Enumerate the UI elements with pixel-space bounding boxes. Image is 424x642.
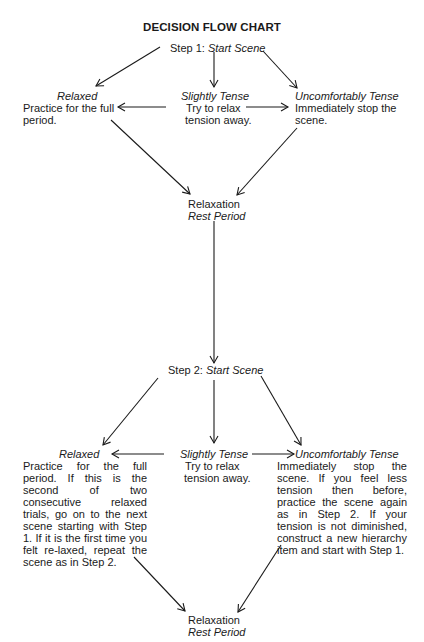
arrow-step2-to-relaxed	[103, 378, 158, 445]
step2-rest-line1: Relaxation	[188, 614, 240, 626]
chart-title: DECISION FLOW CHART	[0, 21, 424, 33]
arrow-uncomfortable-to-rest-1	[237, 128, 297, 195]
arrow-step1-to-uncomfortable	[263, 51, 297, 88]
step1-uncomfortable-heading: Uncomfortably Tense	[295, 90, 399, 102]
arrow-uncomfortable-to-rest-2	[238, 545, 281, 612]
step1-action: Start Scene	[208, 42, 265, 54]
step1-rest-line2: Rest Period	[188, 210, 245, 222]
step2-rest-line2: Rest Period	[188, 626, 245, 638]
step2-label: Step 2:	[168, 364, 203, 376]
step1-uncomfortable-text-2: scene.	[295, 114, 327, 126]
step1-relaxed-text-2: period.	[23, 114, 57, 126]
arrow-relaxed-to-rest-1	[111, 120, 190, 194]
step1-uncomfortable-text-1: Immediately stop the	[295, 102, 397, 114]
step2-uncomfortable-text: Immediately stop the scene. If you feel …	[277, 460, 407, 556]
step1-label: Step 1:	[170, 42, 205, 54]
step1-slightly-text-1: Try to relax	[186, 102, 241, 114]
step2-uncomfortable-heading: Uncomfortably Tense	[295, 448, 399, 460]
step1-slightly-text-2: tension away.	[185, 114, 251, 126]
step1-node: Step 1: Start Scene	[170, 42, 265, 54]
step2-slightly-text-1: Try to relax	[185, 460, 240, 472]
arrow-step2-to-uncomfortable	[261, 376, 301, 445]
step1-slightly-heading: Slightly Tense	[181, 90, 249, 102]
step2-relaxed-text: Practice for the full period. If this is…	[23, 460, 147, 568]
step2-node: Step 2: Start Scene	[168, 364, 263, 376]
step1-relaxed-text-1: Practice for the full	[23, 102, 114, 114]
step2-relaxed-heading: Relaxed	[59, 448, 99, 460]
step2-slightly-text-2: tension away.	[184, 472, 250, 484]
step2-action: Start Scene	[206, 364, 263, 376]
step1-rest-line1: Relaxation	[188, 198, 240, 210]
step1-relaxed-heading: Relaxed	[57, 90, 97, 102]
arrow-step1-to-relaxed	[96, 47, 160, 86]
step2-slightly-heading: Slightly Tense	[180, 448, 248, 460]
